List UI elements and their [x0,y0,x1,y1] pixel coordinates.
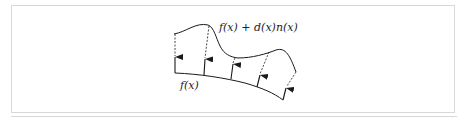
arrow-icon [204,59,205,75]
base-surface-label: f(x) [180,80,199,91]
arrow-icon [283,88,286,100]
arrow-icon [257,75,260,87]
arrow-icon [231,64,233,79]
displaced-surface-label: f(x) + d(x)n(x) [219,22,298,33]
displacement-diagram [0,0,466,120]
displacement-dashes [175,26,296,86]
